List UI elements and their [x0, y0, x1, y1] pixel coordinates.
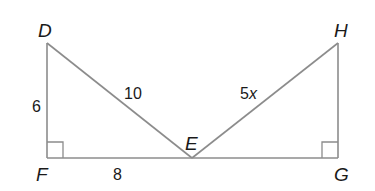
length-label-EH-variable: x [248, 85, 258, 102]
length-label-DE: 10 [124, 85, 142, 102]
geometry-diagram: D F E H G 6 10 8 5x [0, 0, 375, 191]
vertex-label-F: F [36, 164, 49, 185]
right-angle-marker-F [47, 142, 63, 158]
segment-EH [192, 43, 338, 158]
right-angle-marker-G [322, 142, 338, 158]
length-label-EH-coefficient: 5 [240, 85, 249, 102]
vertex-label-H: H [334, 20, 348, 41]
vertex-label-G: G [334, 164, 349, 185]
segment-DE [47, 43, 192, 158]
length-label-DF: 6 [32, 98, 41, 115]
length-label-EH: 5x [240, 85, 258, 102]
length-label-FE: 8 [113, 166, 122, 183]
vertex-label-E: E [185, 133, 198, 154]
vertex-label-D: D [38, 20, 52, 41]
